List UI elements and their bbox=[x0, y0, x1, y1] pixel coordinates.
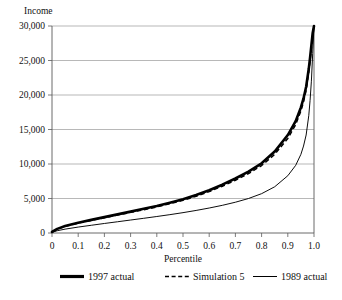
y-tick-label: 10,000 bbox=[19, 159, 45, 169]
x-tick-label: 0.1 bbox=[72, 241, 84, 251]
y-axis-tick-labels: 05,00010,00015,00020,00025,00030,000 bbox=[19, 21, 45, 238]
legend-label: 1997 actual bbox=[88, 271, 135, 282]
x-axis-title: Percentile bbox=[164, 254, 202, 264]
legend-label: Simulation 5 bbox=[193, 271, 244, 282]
y-tick-label: 0 bbox=[40, 228, 45, 238]
x-tick-label: 1.0 bbox=[308, 241, 320, 251]
y-tick-label: 30,000 bbox=[19, 21, 45, 31]
y-tick-label: 25,000 bbox=[19, 56, 45, 66]
y-tick-label: 15,000 bbox=[19, 125, 45, 135]
chart-figure: Income Percentile 05,00010,00015,00020,0… bbox=[0, 0, 342, 300]
y-axis-title: Income bbox=[24, 6, 53, 16]
series-line bbox=[52, 26, 314, 232]
x-tick-label: 0.3 bbox=[125, 241, 137, 251]
x-tick-label: 0.7 bbox=[229, 241, 241, 251]
x-tick-label: 0.9 bbox=[282, 241, 294, 251]
gridlines bbox=[52, 26, 314, 199]
x-tick-label: 0 bbox=[50, 241, 55, 251]
x-axis-tick-labels: 00.10.20.30.40.50.60.70.80.91.0 bbox=[50, 241, 321, 251]
chart-legend: 1997 actualSimulation 51989 actual bbox=[60, 271, 328, 282]
x-tick-label: 0.4 bbox=[151, 241, 163, 251]
x-tick-label: 0.8 bbox=[256, 241, 268, 251]
series-line bbox=[52, 26, 314, 232]
tick-marks bbox=[48, 26, 314, 237]
x-tick-label: 0.5 bbox=[177, 241, 189, 251]
income-percentile-line-chart: Income Percentile 05,00010,00015,00020,0… bbox=[0, 0, 342, 300]
x-tick-label: 0.2 bbox=[98, 241, 110, 251]
y-tick-label: 5,000 bbox=[24, 194, 46, 204]
legend-label: 1989 actual bbox=[281, 271, 328, 282]
x-tick-label: 0.6 bbox=[203, 241, 215, 251]
y-tick-label: 20,000 bbox=[19, 90, 45, 100]
